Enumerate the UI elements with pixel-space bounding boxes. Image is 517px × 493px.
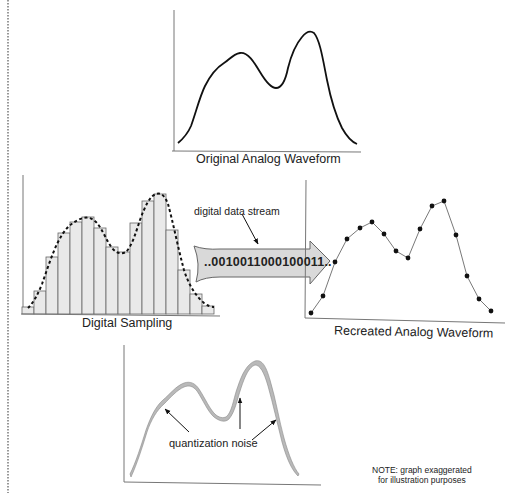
note-line-1: NOTE: graph exaggerated bbox=[372, 465, 472, 475]
recreated-waveform-title: Recreated Analog Waveform bbox=[334, 324, 494, 341]
analog-curve bbox=[178, 32, 357, 144]
digital-sampling-title: Digital Sampling bbox=[82, 316, 172, 330]
quantization-noise-chart bbox=[124, 345, 321, 485]
x-axis bbox=[305, 318, 505, 323]
stream-pointer bbox=[242, 214, 258, 244]
digital-sampling-chart bbox=[21, 175, 220, 316]
sample-points bbox=[309, 199, 494, 316]
y-axis bbox=[305, 180, 306, 318]
quantization-noise-label: quantization noise bbox=[169, 437, 258, 449]
original-waveform-title: Original Analog Waveform bbox=[196, 152, 341, 166]
data-stream-arrow bbox=[194, 214, 330, 284]
recreated-waveform-chart bbox=[305, 180, 505, 323]
noise-pointer-left bbox=[165, 409, 189, 432]
sample-bars bbox=[22, 194, 214, 314]
exaggeration-note: NOTE: graph exaggerated for illustration… bbox=[372, 465, 472, 485]
note-line-2: for illustration purposes bbox=[372, 475, 472, 485]
original-waveform-chart bbox=[172, 10, 361, 152]
data-stream-label: digital data stream bbox=[194, 205, 280, 217]
data-stream-bits: ..0010011000100011.. bbox=[204, 255, 332, 269]
noise-band bbox=[130, 361, 299, 477]
diagram-graphics bbox=[0, 0, 517, 493]
recreated-line bbox=[311, 201, 491, 313]
digital-audio-diagram: Original Analog Waveform Digital Samplin… bbox=[0, 0, 517, 493]
x-axis bbox=[124, 482, 321, 485]
